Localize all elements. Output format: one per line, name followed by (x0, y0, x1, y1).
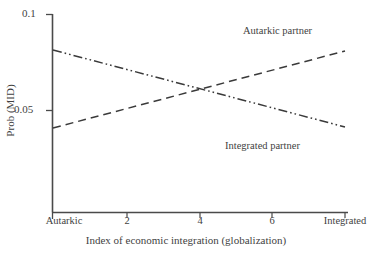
y-axis-title: Prob (MID) (5, 76, 16, 146)
x-axis-tick-label-2: 2 (112, 216, 142, 227)
series-annotation-integrated-partner: Integrated partner (225, 141, 300, 152)
chart-figure: 0.1 0.05 Prob (MID) Autarkic 2 4 6 Integ… (0, 0, 372, 256)
x-axis-tick-label-integrated: Integrated (310, 216, 372, 227)
y-axis-tick-label-top: 0.1 (22, 8, 36, 19)
x-axis-title: Index of economic integration (globaliza… (0, 235, 372, 246)
series-line-integrated-partner (53, 51, 345, 128)
x-axis-tick-label-4: 4 (185, 216, 215, 227)
x-axis-tick-label-autarkic: Autarkic (34, 216, 94, 227)
series-line-autarkic-partner (53, 50, 345, 127)
y-axis-tick-label-mid: 0.05 (14, 104, 33, 115)
series-annotation-autarkic-partner: Autarkic partner (243, 26, 312, 37)
x-axis-tick-label-6: 6 (257, 216, 287, 227)
